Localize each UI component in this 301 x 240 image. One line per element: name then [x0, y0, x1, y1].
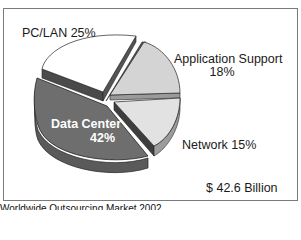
label-pc-lan: PC/LAN 25%	[22, 26, 96, 40]
label-data-center-pct: 42%	[90, 131, 115, 145]
total-annotation: $ 42.6 Billion	[206, 181, 278, 195]
label-app-support: Application Support	[174, 52, 270, 66]
label-data-center: Data Center	[51, 117, 121, 131]
label-network: Network 15%	[182, 138, 256, 152]
label-app-support-pct: 18%	[174, 65, 270, 79]
figure-caption: Worldwide Outsourcing Market 2002	[0, 203, 162, 210]
